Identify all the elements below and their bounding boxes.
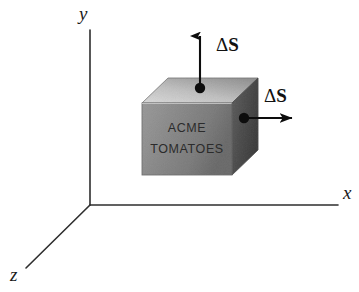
vector-top-label-symbol: S [228,34,239,55]
box-front-face [142,103,232,175]
vector-top-anchor-dot [195,83,205,93]
box-brand-line: ACME [168,121,207,135]
figure-canvas: y x z ACME TOMATOES ΔS [0,0,359,292]
x-axis-label: x [342,182,352,203]
z-axis-label: z [9,264,18,285]
vector-flux-figure: y x z ACME TOMATOES ΔS [0,0,359,292]
vector-right-label: ΔS [264,85,287,106]
vector-right-anchor-dot [239,113,249,123]
vector-right-label-delta: Δ [264,85,276,106]
vector-top-label: ΔS [216,34,239,55]
box-product-line: TOMATOES [150,142,224,156]
z-axis-line [26,205,90,268]
y-axis-label: y [77,3,88,24]
vector-top-label-delta: Δ [216,34,228,55]
vector-right-label-symbol: S [276,85,287,106]
